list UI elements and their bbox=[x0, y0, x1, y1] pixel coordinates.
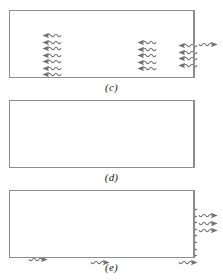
emitted-photon bbox=[196, 41, 218, 48]
panel-label-d: (d) bbox=[0, 171, 223, 183]
laser-cavity-figure: (c)(d)(e) bbox=[0, 0, 223, 280]
photon-arrow-right bbox=[196, 41, 218, 48]
panel-label-e: (e) bbox=[0, 261, 223, 273]
emitted-photon-beam bbox=[196, 212, 218, 235]
laser-cavity-e bbox=[9, 190, 195, 258]
photon-arrow-left bbox=[42, 71, 64, 78]
middle-photon-burst bbox=[137, 39, 159, 72]
left-photon-burst bbox=[42, 32, 64, 78]
laser-cavity-d bbox=[9, 100, 195, 168]
photon-arrow-right bbox=[196, 212, 218, 220]
photon-arrow-right bbox=[196, 227, 218, 235]
photon-arrow-right bbox=[196, 220, 218, 228]
panel-label-c: (c) bbox=[0, 81, 223, 93]
photon-arrow-left bbox=[178, 62, 200, 69]
laser-cavity-c bbox=[9, 10, 195, 78]
photon-arrow-left bbox=[137, 65, 159, 72]
